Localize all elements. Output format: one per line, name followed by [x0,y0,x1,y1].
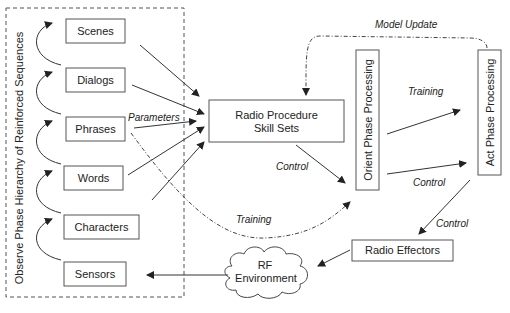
edge-model-update [306,36,487,95]
node-sensors: Sensors [64,262,126,286]
edge-control-to-act [387,163,466,174]
svg-text:Scenes: Scenes [77,25,114,37]
edge-training-to-act [387,110,460,134]
label-training-bottom: Training [236,214,272,225]
node-radio-procedure: Radio Procedure Skill Sets [209,100,344,142]
diagram-canvas: Observe Phase Hierarchy of Reinforced Se… [0,0,510,313]
node-scenes: Scenes [66,19,125,43]
svg-text:Radio Procedure: Radio Procedure [235,109,318,121]
observe-phase-group [6,8,184,297]
svg-text:Phrases: Phrases [75,123,116,135]
label-model-update: Model Update [375,19,438,30]
edge-effectors-to-rf [318,250,350,266]
svg-text:Orient Phase Processing: Orient Phase Processing [362,59,374,181]
svg-text:Characters: Characters [75,221,129,233]
label-control-act: Control [436,218,469,229]
node-orient: Orient Phase Processing [356,50,379,190]
observe-phase-label: Observe Phase Hierarchy of Reinforced Se… [13,31,25,284]
node-act: Act Phase Processing [478,50,501,175]
node-phrases: Phrases [66,117,125,141]
svg-text:RF: RF [258,259,273,271]
label-control-orient: Control [413,177,446,188]
svg-text:Sensors: Sensors [75,268,116,280]
svg-text:Skill Sets: Skill Sets [254,122,300,134]
svg-text:Words: Words [78,172,110,184]
svg-text:Environment: Environment [235,272,297,284]
node-characters: Characters [64,215,139,239]
label-training-top: Training [408,86,444,97]
label-control-mid: Control [276,161,309,172]
label-parameters: Parameters [128,112,180,123]
node-words: Words [64,166,123,190]
hierarchy-curves [36,23,61,260]
svg-text:Dialogs: Dialogs [77,74,114,86]
node-dialogs: Dialogs [66,68,125,92]
node-radio-effectors: Radio Effectors [352,240,453,261]
svg-text:Act Phase Processing: Act Phase Processing [484,59,496,167]
svg-text:Radio Effectors: Radio Effectors [365,244,441,256]
node-rf-environment: RF Environment [225,247,308,298]
